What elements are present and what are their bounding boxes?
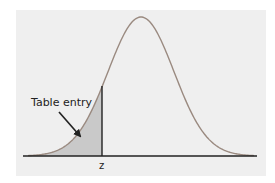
arrow-icon <box>59 112 80 136</box>
normal-curve-diagram: Table entry z <box>0 0 275 183</box>
table-entry-label: Table entry <box>30 96 93 109</box>
normal-curve <box>28 17 254 156</box>
z-axis-label: z <box>99 160 104 171</box>
